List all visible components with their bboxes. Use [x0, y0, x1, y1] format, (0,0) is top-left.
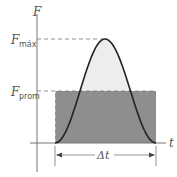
average-force-rectangle [55, 91, 156, 143]
f-max-subscript: máx [19, 40, 37, 49]
arrowhead-right-icon [149, 153, 155, 158]
x-axis-label: t [169, 136, 174, 150]
delta-t-label: Δt [96, 149, 110, 162]
y-axis-label: F [32, 5, 42, 19]
f-prom-subscript: prom [19, 92, 40, 101]
arrowhead-left-icon [56, 153, 62, 158]
impulse-diagram: F t F máx F prom Δt [0, 0, 177, 177]
